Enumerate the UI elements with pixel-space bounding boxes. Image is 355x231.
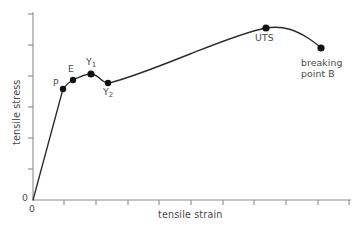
point-Y1 xyxy=(87,70,94,77)
x-axis-label: tensile strain xyxy=(158,209,222,220)
plot-area xyxy=(0,0,355,231)
annotation-Y2: Y2 xyxy=(103,87,113,98)
curve-markers xyxy=(60,24,325,92)
stress-strain-chart: P E Y1 Y2 UTS breaking point B tensile s… xyxy=(0,0,355,231)
y-axis-ticks xyxy=(28,14,33,169)
annotation-breaking-line2: point B xyxy=(301,69,343,80)
point-UTS xyxy=(262,24,269,31)
annotation-P: P xyxy=(53,78,59,89)
annotation-uts: UTS xyxy=(255,33,274,44)
annotation-Y2-subscript: 2 xyxy=(109,90,114,99)
point-P xyxy=(60,86,66,92)
x-axis-origin-label: 0 xyxy=(29,203,35,214)
stress-strain-curve xyxy=(33,27,321,200)
y-axis-label: tensile stress xyxy=(11,79,22,145)
annotation-Y2-base: Y xyxy=(103,86,109,97)
point-breaking xyxy=(317,44,324,51)
y-axis-origin-label: 0 xyxy=(22,192,28,203)
annotation-Y1-subscript: 1 xyxy=(92,60,97,69)
x-axis-ticks xyxy=(64,200,349,205)
annotation-Y1-base: Y xyxy=(86,56,92,67)
point-E xyxy=(70,77,76,83)
annotation-Y1: Y1 xyxy=(86,57,96,68)
annotation-E: E xyxy=(68,64,74,75)
annotation-breaking-point: breaking point B xyxy=(301,58,343,80)
